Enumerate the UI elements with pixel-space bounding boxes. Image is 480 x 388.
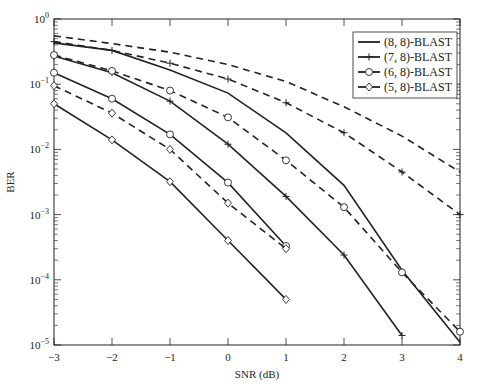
legend-label: (8, 8)-BLAST [384, 35, 453, 49]
y-tick-label: 10−3 [29, 207, 49, 221]
legend: (8, 8)-BLAST(7, 8)-BLAST(6, 8)-BLAST(5, … [353, 32, 457, 98]
data-point-diamond [51, 100, 58, 108]
x-tick-label: 3 [399, 351, 405, 363]
data-point-plus [341, 129, 348, 136]
y-axis-title: BER [4, 171, 16, 193]
data-point-circle [225, 179, 232, 186]
x-tick-label: −3 [48, 351, 60, 363]
data-point-diamond [109, 136, 116, 144]
y-tick-label: 10−2 [29, 141, 49, 155]
data-point-plus [283, 99, 290, 106]
legend-label: (7, 8)-BLAST [384, 50, 453, 64]
legend-marker-circle [366, 69, 373, 76]
data-point-circle [167, 131, 174, 138]
legend-label: (6, 8)-BLAST [384, 65, 453, 79]
data-point-circle [51, 52, 58, 59]
data-point-plus [225, 76, 232, 83]
x-tick-label: 2 [341, 351, 347, 363]
legend-label: (5, 8)-BLAST [384, 80, 453, 94]
data-point-circle [109, 95, 116, 102]
x-tick-label: −1 [164, 351, 176, 363]
data-point-circle [225, 114, 232, 121]
x-tick-label: 4 [457, 351, 463, 363]
x-tick-label: −2 [106, 351, 118, 363]
data-point-circle [51, 69, 58, 76]
data-point-diamond [51, 82, 58, 90]
data-point-circle [457, 328, 464, 335]
y-tick-label: 100 [34, 11, 49, 25]
data-point-circle [167, 87, 174, 94]
y-tick-label: 10−5 [29, 337, 49, 351]
x-axis-title: SNR (dB) [235, 368, 280, 381]
ber-chart: −3−2−10123410010−110−210−310−410−5 SNR (… [0, 0, 480, 388]
data-point-diamond [109, 109, 116, 117]
data-point-plus [51, 38, 58, 45]
data-point-circle [341, 204, 348, 211]
data-point-plus [167, 60, 174, 67]
y-tick-label: 10−1 [29, 76, 49, 90]
data-point-circle [109, 67, 116, 74]
y-tick-label: 10−4 [29, 272, 49, 286]
data-point-circle [283, 157, 290, 164]
x-tick-label: 0 [225, 351, 231, 363]
series-line-dashed [54, 86, 286, 249]
x-tick-label: 1 [283, 351, 289, 363]
series-line-solid [54, 56, 402, 335]
data-point-circle [399, 269, 406, 276]
data-point-plus [109, 47, 116, 54]
